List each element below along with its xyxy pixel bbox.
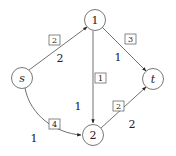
edge-s1-box: 2	[49, 35, 60, 45]
svg-text:2: 2	[90, 129, 97, 142]
edge-12-capacity: 1	[75, 100, 82, 113]
svg-text:s: s	[19, 72, 25, 85]
edge-s2-capacity: 1	[31, 132, 38, 145]
node-s: s	[12, 68, 33, 89]
edge-2t-box: 2	[113, 101, 124, 111]
svg-text:4: 4	[52, 120, 57, 129]
svg-text:t: t	[151, 73, 156, 86]
svg-text:1: 1	[98, 74, 103, 83]
svg-text:2: 2	[52, 36, 57, 45]
node-2: 2	[83, 125, 104, 146]
edge-1t-capacity: 1	[115, 51, 122, 64]
flow-network-diagram: 2 1 1 1 2 2 3 1 4 2 s	[0, 0, 176, 156]
edge-12-box: 1	[95, 73, 106, 83]
edge-1-to-t	[102, 27, 146, 71]
edge-s1-capacity: 2	[57, 52, 64, 65]
edge-1t-box: 3	[125, 34, 136, 44]
edge-2t-capacity: 2	[129, 118, 136, 131]
node-t: t	[143, 69, 164, 90]
svg-text:3: 3	[128, 35, 133, 44]
svg-text:2: 2	[116, 102, 121, 111]
svg-text:1: 1	[92, 14, 99, 27]
edge-s2-box: 4	[49, 119, 60, 129]
node-1: 1	[85, 10, 106, 31]
